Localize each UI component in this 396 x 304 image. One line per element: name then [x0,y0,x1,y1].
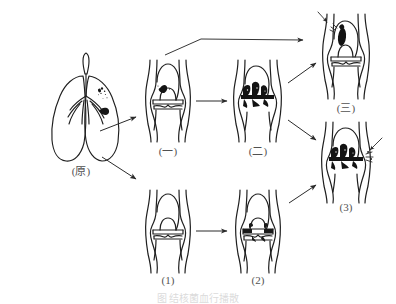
knee-upper-1 [146,60,191,142]
arrow-lung-to-lower1 [102,157,136,179]
knee-upper-3 [323,14,370,99]
panel-label-upper-2: (二) [249,142,267,158]
knee-upper-2 [234,60,282,142]
panel-label-upper-1: (一) [159,142,177,158]
knee-lower-3 [322,122,371,203]
arrow-upper2-to-lower3 [288,120,316,140]
knee-upper-3-lesion [337,24,347,46]
panel-label-lower-3: (3) [340,201,353,213]
panel-label-upper-3: (三) [337,99,355,115]
arrow-bent-to-upper3 [165,39,303,55]
panel-label-lower-2: (2) [252,274,265,286]
figure-caption: 图 结核菌血行播散 [157,290,240,304]
lung-lesion-focus [97,87,113,115]
anatomical-diagram [0,0,396,304]
knee-lower-2 [236,190,281,273]
knee-lower-1 [146,190,191,273]
lung-illustration [52,53,119,161]
panel-label-origin: (原) [72,162,90,178]
panel-label-lower-1: (1) [162,274,175,286]
knee-lower-2-erosion [243,223,273,242]
knee-upper-1-lesion [158,82,171,97]
arrow-lower2-to-lower3 [289,185,316,203]
arrow-upper2-to-upper3 [288,63,316,83]
